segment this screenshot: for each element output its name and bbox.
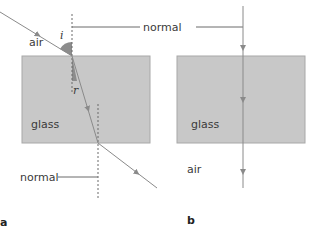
air-label-b: air	[187, 163, 202, 176]
normal-label-top: normal	[143, 21, 182, 34]
glass-label-a: glass	[31, 118, 60, 131]
angle-i-label: i	[60, 29, 64, 42]
panel-a-label: a	[0, 216, 7, 229]
glass-label-b: glass	[191, 118, 220, 131]
angle-i-wedge	[60, 42, 72, 56]
refraction-diagram: air i r glass normal a normal glass air …	[0, 0, 323, 232]
air-label-a: air	[29, 36, 44, 49]
panel-b-label: b	[187, 214, 195, 227]
normal-label-a: normal	[20, 171, 59, 184]
panel-b: glass air b	[177, 6, 305, 227]
angle-r-label: r	[73, 84, 79, 97]
emergent-ray	[98, 143, 157, 188]
panel-a: air i r glass normal a	[0, 12, 157, 229]
